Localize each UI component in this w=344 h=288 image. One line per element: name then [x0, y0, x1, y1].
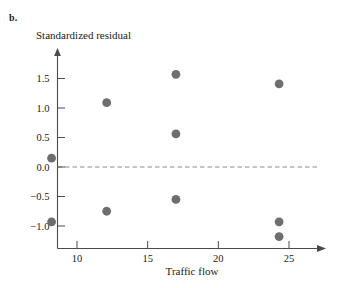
data-point	[172, 130, 181, 139]
y-tick-label: −1.0	[30, 221, 49, 232]
x-tick-label: 10	[72, 253, 83, 264]
x-tick-label: 25	[284, 253, 295, 264]
data-point	[172, 195, 181, 204]
figure-panel-b: b. Standardized residual 1.51.00.50.0−0.…	[0, 0, 344, 288]
data-point	[275, 79, 284, 88]
x-tick-label: 15	[142, 253, 153, 264]
x-axis-title: Traffic flow	[166, 265, 219, 277]
axes-layer	[54, 48, 326, 252]
data-point	[102, 207, 111, 216]
x-tick-label: 20	[213, 253, 224, 264]
data-point	[275, 217, 284, 226]
data-point	[172, 70, 181, 79]
y-tick-label: −0.5	[30, 191, 49, 202]
tick-marks-layer	[58, 79, 290, 249]
scatter-plot-canvas: 1.51.00.50.0−0.5−1.010152025	[0, 0, 344, 288]
data-points-layer	[47, 70, 283, 241]
y-tick-label: 0.5	[36, 132, 49, 143]
tick-labels-layer: 1.51.00.50.0−0.5−1.010152025	[30, 73, 294, 264]
data-point	[275, 232, 284, 241]
data-point	[47, 154, 56, 163]
data-point	[47, 217, 56, 226]
x-axis-title-wrap: Traffic flow	[0, 265, 344, 277]
data-point	[102, 98, 111, 107]
y-tick-label: 1.5	[36, 73, 49, 84]
y-tick-label: 0.0	[36, 162, 49, 173]
y-tick-label: 1.0	[36, 103, 49, 114]
